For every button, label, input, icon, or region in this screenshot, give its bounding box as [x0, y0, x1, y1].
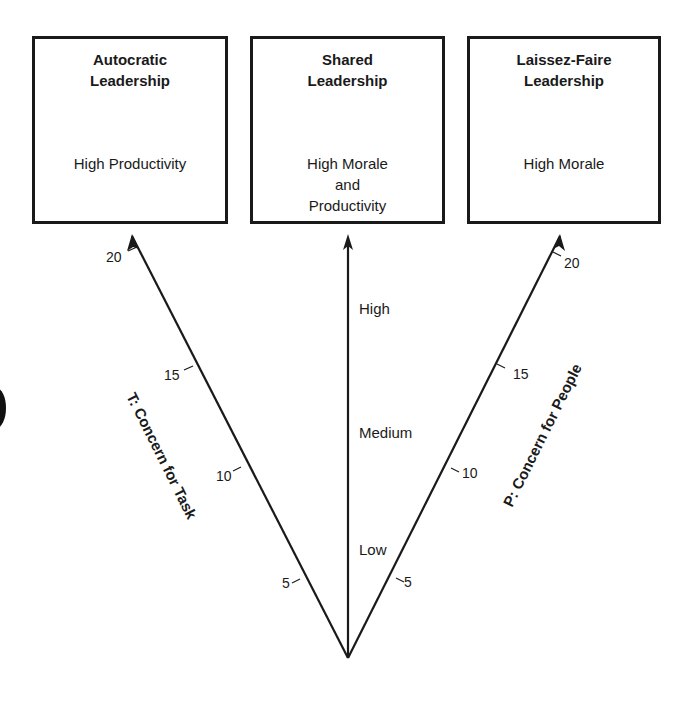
level-medium: Medium [359, 424, 412, 441]
level-high: High [359, 300, 390, 317]
task-axis-title: T: Concern for Task [123, 390, 200, 522]
leadership-level-axis: High Medium Low [343, 234, 412, 658]
task-tick-5: 5 [282, 575, 290, 591]
task-tick-10: 10 [216, 468, 232, 484]
people-tick-20: 20 [564, 255, 580, 271]
people-tick-10: 10 [462, 465, 478, 481]
task-tick-15: 15 [164, 367, 180, 383]
task-tick-20: 20 [106, 249, 122, 265]
task-axis: 20 15 10 5 T: Concern for Task [106, 234, 348, 658]
people-axis-title: P: Concern for People [499, 361, 585, 510]
people-axis: 20 15 10 5 P: Concern for People [348, 234, 585, 658]
level-low: Low [359, 541, 387, 558]
people-tick-5: 5 [404, 574, 412, 590]
axes-diagram: 20 15 10 5 T: Concern for Task High Medi… [0, 0, 683, 707]
people-tick-15: 15 [513, 366, 529, 382]
